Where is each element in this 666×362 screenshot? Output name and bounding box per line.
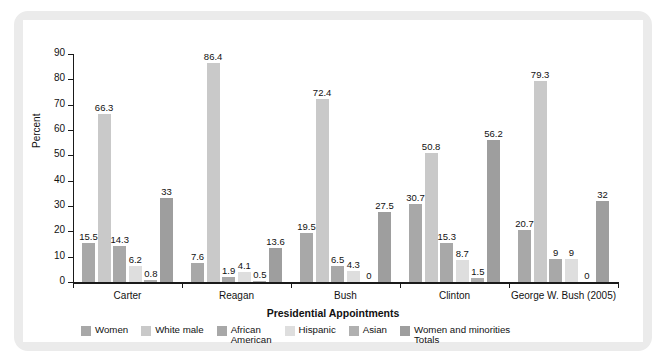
legend-swatch-icon <box>285 326 295 336</box>
chart-legend: WomenWhite maleAfrican AmericanHispanicA… <box>81 325 551 346</box>
x-axis-title: Presidential Appointments <box>23 307 643 319</box>
bar[interactable]: 32 <box>596 54 609 282</box>
bar[interactable]: 9 <box>549 54 562 282</box>
bar-rect <box>113 246 126 282</box>
bar[interactable]: 72.4 <box>316 54 329 282</box>
bar-value-label: 72.4 <box>313 88 332 98</box>
legend-item[interactable]: Hispanic <box>285 325 336 336</box>
bar-rect <box>253 281 266 282</box>
legend-item[interactable]: African American <box>217 325 272 346</box>
bar-value-label: 33 <box>161 187 172 197</box>
y-tick-label: 70 <box>43 98 65 109</box>
bar[interactable]: 14.3 <box>113 54 126 282</box>
bar[interactable]: 4.1 <box>238 54 251 282</box>
bar-rect <box>300 233 313 282</box>
bar[interactable]: 33 <box>160 54 173 282</box>
bar[interactable]: 0.5 <box>253 54 266 282</box>
y-tick-label: 60 <box>43 123 65 134</box>
x-axis-group-separator <box>182 282 183 288</box>
bar-value-label: 1.9 <box>222 266 235 276</box>
bar-group: 20.779.399032 <box>509 54 618 282</box>
bar[interactable]: 9 <box>565 54 578 282</box>
legend-swatch-icon <box>81 326 91 336</box>
legend-item[interactable]: Asian <box>349 325 387 336</box>
bar[interactable]: 86.4 <box>207 54 220 282</box>
bar-value-label: 66.3 <box>95 103 114 113</box>
legend-item[interactable]: Women and minorities Totals <box>400 325 510 346</box>
x-axis-group-separator <box>509 282 510 288</box>
bar-value-label: 0.8 <box>144 269 157 279</box>
bar-rect <box>378 212 391 282</box>
bar-value-label: 7.6 <box>191 252 204 262</box>
bar[interactable]: 15.5 <box>82 54 95 282</box>
bar[interactable]: 66.3 <box>98 54 111 282</box>
y-tick-label: 80 <box>43 72 65 83</box>
y-tick-label: 0 <box>43 275 65 286</box>
bar[interactable]: 8.7 <box>456 54 469 282</box>
bar[interactable]: 6.5 <box>331 54 344 282</box>
bar[interactable]: 15.3 <box>440 54 453 282</box>
bar[interactable]: 1.9 <box>222 54 235 282</box>
x-axis-group-label: Clinton <box>439 290 470 301</box>
bar-value-label: 19.5 <box>297 222 316 232</box>
bar-value-label: 15.5 <box>79 232 98 242</box>
bar-group: 19.572.46.54.3027.5 <box>291 54 400 282</box>
bar[interactable]: 56.2 <box>487 54 500 282</box>
bar[interactable]: 13.6 <box>269 54 282 282</box>
bar-value-label: 1.5 <box>471 267 484 277</box>
bar[interactable]: 19.5 <box>300 54 313 282</box>
y-tick-label: 40 <box>43 174 65 185</box>
bar-value-label: 9 <box>569 248 574 258</box>
bar[interactable]: 27.5 <box>378 54 391 282</box>
bar-rect <box>456 260 469 282</box>
y-tick-label: 90 <box>43 47 65 58</box>
bar[interactable]: 0 <box>362 54 375 282</box>
legend-swatch-icon <box>349 326 359 336</box>
x-axis-group-label: George W. Bush (2005) <box>511 290 616 301</box>
bar[interactable]: 1.5 <box>471 54 484 282</box>
bar-value-label: 14.3 <box>110 235 129 245</box>
bar[interactable]: 0.8 <box>144 54 157 282</box>
bar-rect <box>596 201 609 282</box>
bar[interactable]: 7.6 <box>191 54 204 282</box>
bar-value-label: 0.5 <box>253 270 266 280</box>
bar-value-label: 8.7 <box>456 249 469 259</box>
bar-rect <box>129 266 142 282</box>
bar-value-label: 32 <box>597 190 608 200</box>
legend-label: Women <box>95 325 128 335</box>
y-axis-label: Percent <box>31 114 42 148</box>
bar[interactable]: 20.7 <box>518 54 531 282</box>
bar[interactable]: 30.7 <box>409 54 422 282</box>
bar[interactable]: 79.3 <box>534 54 547 282</box>
bar[interactable]: 0 <box>580 54 593 282</box>
bar-value-label: 6.5 <box>331 255 344 265</box>
bar-rect <box>425 153 438 282</box>
bar[interactable]: 50.8 <box>425 54 438 282</box>
chart-frame: Percent 0102030405060708090 15.566.314.3… <box>14 11 652 351</box>
legend-swatch-icon <box>217 326 227 336</box>
legend-label: African American <box>231 325 272 346</box>
bar-rect <box>331 266 344 282</box>
bar-rect <box>98 114 111 282</box>
legend-swatch-icon <box>141 326 151 336</box>
bar-group: 7.686.41.94.10.513.6 <box>182 54 291 282</box>
legend-item[interactable]: White male <box>141 325 203 336</box>
x-axis-group-separator <box>400 282 401 288</box>
y-tick-label: 10 <box>43 250 65 261</box>
legend-label: White male <box>155 325 203 335</box>
bar-value-label: 79.3 <box>531 70 550 80</box>
bar[interactable]: 4.3 <box>347 54 360 282</box>
bar-rect <box>347 271 360 282</box>
legend-swatch-icon <box>400 326 410 336</box>
bar-value-label: 13.6 <box>266 237 285 247</box>
x-axis-group-label: Bush <box>334 290 357 301</box>
bar-rect <box>160 198 173 282</box>
bar-value-label: 4.1 <box>238 261 251 271</box>
bar-rect <box>82 243 95 282</box>
y-tick-label: 20 <box>43 224 65 235</box>
bar-value-label: 6.2 <box>129 255 142 265</box>
bar[interactable]: 6.2 <box>129 54 142 282</box>
x-axis-group-separator <box>291 282 292 288</box>
legend-item[interactable]: Women <box>81 325 128 336</box>
bar-rect <box>238 272 251 282</box>
